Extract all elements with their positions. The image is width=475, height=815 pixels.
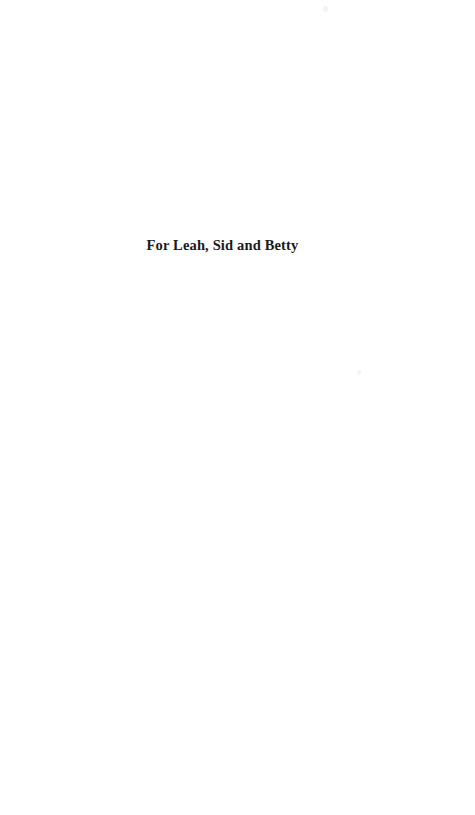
- scan-speck-icon: [323, 6, 328, 12]
- dedication-page: For Leah, Sid and Betty: [0, 0, 475, 815]
- dedication-block: For Leah, Sid and Betty: [0, 236, 445, 254]
- scan-speck-icon: [357, 370, 361, 375]
- dedication-text: For Leah, Sid and Betty: [147, 236, 299, 254]
